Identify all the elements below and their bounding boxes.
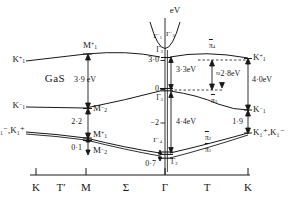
band-upper-left (26, 53, 160, 61)
arrow-m-bottom-gap (86, 137, 90, 155)
label-gamma3-upper-sub: 3 (161, 49, 163, 54)
label-pi1-sub: 1 (209, 148, 211, 153)
label-gamma4-plus: Γ+4 (153, 137, 162, 144)
label-gamma1-minus: Γ−1 (153, 33, 162, 40)
ytick-label-minus2: −2 (150, 119, 159, 127)
label-k1-minus-right-sub: 1 (263, 108, 266, 114)
label-m2-minus-mid-base: M (93, 103, 101, 113)
gap-label-k-gap: 4·0eV (252, 76, 272, 84)
gap-label-gamma-width: 4·4eV (176, 118, 196, 126)
label-gamma2-minus-sub: 2 (175, 161, 177, 166)
label-gamma3-plus: Γ+3 (166, 31, 175, 38)
gap-label-gamma-bottom: 0·7 (145, 160, 156, 168)
gap-label-k-lower: 1·9 (232, 118, 243, 126)
label-k1-plus-right: K+1 (253, 53, 266, 62)
label-gamma3-lower: Γ3 (156, 94, 163, 102)
band-structure-svg (0, 0, 290, 205)
label-k1-plus-left: K+1 (12, 55, 25, 64)
ytick-label-3: 3·0 (148, 56, 159, 64)
kpath-label-Sigma: Σ (123, 182, 129, 193)
gap-label-mid-transition: ≈2·8eV (216, 70, 240, 78)
arrow-gamma-transition-head (220, 83, 225, 89)
label-m2-minus-bottom-base: M (93, 145, 101, 155)
label-pi2-sub: 2 (209, 136, 211, 141)
label-gamma4-plus-sub: 4 (160, 139, 162, 144)
band-structure-figure: eV GaS 3·0 0 −2 3·9 eV 3·3eV 4·4eV ≈2·8e… (0, 0, 290, 205)
label-m2-minus-mid-sub: 2 (104, 107, 107, 113)
label-gamma3-upper: Γ3 (156, 46, 163, 54)
kpath-label-K-right: K (244, 182, 252, 193)
arrow-m-mid-gap (86, 108, 91, 139)
energy-axis-label: eV (170, 6, 181, 15)
label-k1-plus-k1-minus-right: K₁⁺,K₁⁻ (253, 128, 285, 137)
material-label: GaS (45, 73, 65, 84)
label-pi4: π4 (209, 41, 215, 49)
label-m1-plus-top-base: M (83, 40, 91, 50)
band-second-right (170, 91, 248, 110)
arrow-gamma-gap (169, 57, 173, 90)
arrow-k-lower-gap (246, 110, 251, 134)
label-m2-minus-bottom-sub: 2 (104, 149, 107, 155)
label-k1-plus-right-sub: 1 (263, 56, 266, 62)
arrow-mid-transition (210, 60, 215, 90)
label-gamma1-minus-sub: 1 (160, 35, 162, 40)
label-pi3: π3 (211, 96, 217, 104)
kpath-label-Tprime: T′ (56, 182, 65, 193)
kpath-label-T: T (204, 182, 211, 193)
gap-label-m-upper: 3·9 eV (74, 76, 96, 84)
label-m1-plus-low-sub: 1 (104, 133, 107, 139)
arrow-gamma-width (169, 92, 173, 153)
label-k1-minus-left: K−1 (12, 101, 25, 110)
label-m2-minus-mid: M−2 (93, 104, 107, 113)
arrow-k-gap (246, 58, 251, 111)
band-upper-right (170, 54, 248, 58)
label-m1-plus-low-base: M (93, 129, 101, 139)
label-gamma3-plus-sub: 3 (173, 33, 175, 38)
label-m1-plus-top: M+1 (83, 41, 97, 50)
label-m1-plus-low: M+1 (93, 130, 107, 139)
gap-label-m-bottom: 0·1 (71, 144, 82, 152)
label-k1-minus-left-sub: 1 (22, 104, 25, 110)
kpath-label-K-left: K (32, 182, 40, 193)
label-m1-plus-top-sub: 1 (94, 44, 97, 50)
label-pi4-sub: 4 (213, 44, 215, 49)
label-pi2: π2 (205, 133, 211, 141)
label-k1-minus-right: K−1 (253, 105, 266, 114)
label-gamma3-lower-sub: 3 (161, 97, 163, 102)
kpath-label-M: M (81, 182, 91, 193)
label-gamma2-minus: Γ2 (171, 158, 178, 166)
ytick-label-0: 0 (155, 85, 159, 93)
gap-label-gamma-gap: 3·3eV (176, 66, 196, 74)
label-k1-plus-left-sub: 1 (22, 58, 25, 64)
label-k1-minus-k1-plus-left: K₁⁻,K₁⁺ (0, 126, 25, 135)
label-pi3-sub: 3 (215, 99, 217, 104)
kpath-label-Gamma: Γ (162, 182, 168, 193)
m-level-marks (83, 54, 92, 141)
label-pi1: π1 (205, 145, 211, 153)
label-m2-minus-bottom: M−2 (93, 146, 107, 155)
gap-label-m-mid: 2·2 (71, 118, 82, 126)
